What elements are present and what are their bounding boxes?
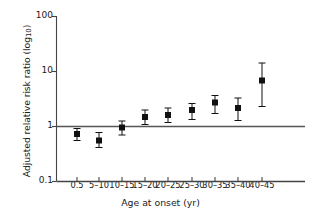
data-point-2 xyxy=(119,121,126,135)
data-point-1 xyxy=(96,133,103,148)
data-point-4 xyxy=(165,108,172,123)
data-point-0 xyxy=(74,129,81,141)
plot-area xyxy=(0,0,321,218)
relative-risk-scatter-chart: Adjusted relative risk ratio (log10) 100… xyxy=(0,0,321,218)
data-point-7 xyxy=(235,98,242,121)
data-point-5 xyxy=(189,104,196,120)
data-series-adjusted-relative-risk xyxy=(74,63,266,148)
data-point-8 xyxy=(259,63,266,107)
data-point-3 xyxy=(142,110,149,125)
x-axis-ticks xyxy=(77,177,262,182)
data-point-6 xyxy=(212,96,219,114)
